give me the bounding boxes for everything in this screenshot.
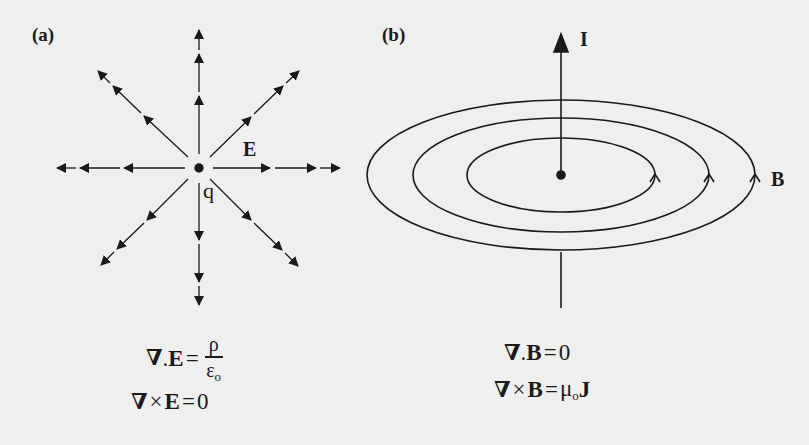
- wire-center-dot: [557, 171, 565, 179]
- magnetic-field-label: B: [771, 168, 784, 191]
- field-symbol: B: [526, 341, 541, 364]
- radial-field-lines: [57, 30, 340, 305]
- div-b-equation: ∇ . B = 0: [504, 341, 570, 364]
- nabla-symbol: ∇: [504, 342, 521, 364]
- current-wire: [554, 34, 568, 308]
- equals-sign: =: [182, 390, 195, 413]
- equals-sign: =: [544, 341, 557, 364]
- nabla-symbol: ∇: [146, 347, 163, 369]
- fraction-bar: [205, 356, 223, 358]
- equals-sign: =: [545, 378, 558, 401]
- field-symbol: E: [165, 390, 180, 413]
- permeability-symbol: μo: [560, 377, 579, 402]
- field-symbol: B: [528, 378, 543, 401]
- current-density-symbol: J: [579, 378, 591, 401]
- nabla-symbol: ∇: [131, 391, 148, 413]
- cross-operator: ×: [150, 390, 163, 413]
- nabla-symbol: ∇: [494, 379, 511, 401]
- fraction-denominator: εo: [206, 360, 221, 383]
- rhs-value: 0: [559, 341, 571, 364]
- rhs-value: 0: [197, 390, 209, 413]
- point-charge-dot: [195, 164, 203, 172]
- gauss-law-equation: ∇ . E = ρ εo: [146, 334, 223, 383]
- figure-canvas: [0, 0, 809, 445]
- rho-over-epsilon-fraction: ρ εo: [205, 334, 223, 383]
- ampere-law-equation: ∇ × B = μo J: [494, 377, 590, 402]
- equals-sign: =: [186, 347, 199, 370]
- current-label: I: [580, 28, 588, 51]
- electric-field-label: E: [243, 138, 256, 161]
- field-symbol: E: [168, 347, 183, 370]
- cross-operator: ×: [513, 378, 526, 401]
- curl-e-equation: ∇ × E = 0: [131, 390, 208, 413]
- fraction-numerator: ρ: [205, 334, 223, 354]
- charge-label: q: [203, 178, 214, 204]
- current-arrow-head: [554, 34, 568, 52]
